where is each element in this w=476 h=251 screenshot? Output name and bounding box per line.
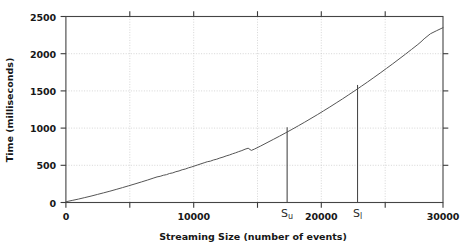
x-tick-label-20000: 20000 xyxy=(305,211,338,222)
x-axis-ticks xyxy=(66,203,443,208)
plot-canvas xyxy=(0,0,476,251)
y-axis-ticks-right xyxy=(443,54,448,166)
y-axis-ticks xyxy=(61,17,66,203)
chart-figure: 0 500 1000 1500 2000 2500 0 10000 20000 … xyxy=(0,0,476,251)
x-tick-label-10000: 10000 xyxy=(177,211,210,222)
annotation-label-sl: Sl xyxy=(353,207,362,220)
y-axis-title: Time (milliseconds) xyxy=(4,58,15,162)
plot-frame xyxy=(66,17,443,203)
gridlines xyxy=(66,17,443,203)
annotation-label-su: Su xyxy=(281,207,293,220)
annotation-markers xyxy=(287,85,357,203)
y-tick-label-0: 0 xyxy=(0,197,56,208)
x-axis-title: Streaming Size (number of events) xyxy=(159,231,347,242)
y-tick-label-2500: 2500 xyxy=(0,11,56,22)
gridlines-vertical xyxy=(130,17,385,203)
x-tick-label-30000: 30000 xyxy=(427,211,460,222)
x-axis-ticks-top xyxy=(130,11,385,16)
x-tick-label-0: 0 xyxy=(63,211,70,222)
